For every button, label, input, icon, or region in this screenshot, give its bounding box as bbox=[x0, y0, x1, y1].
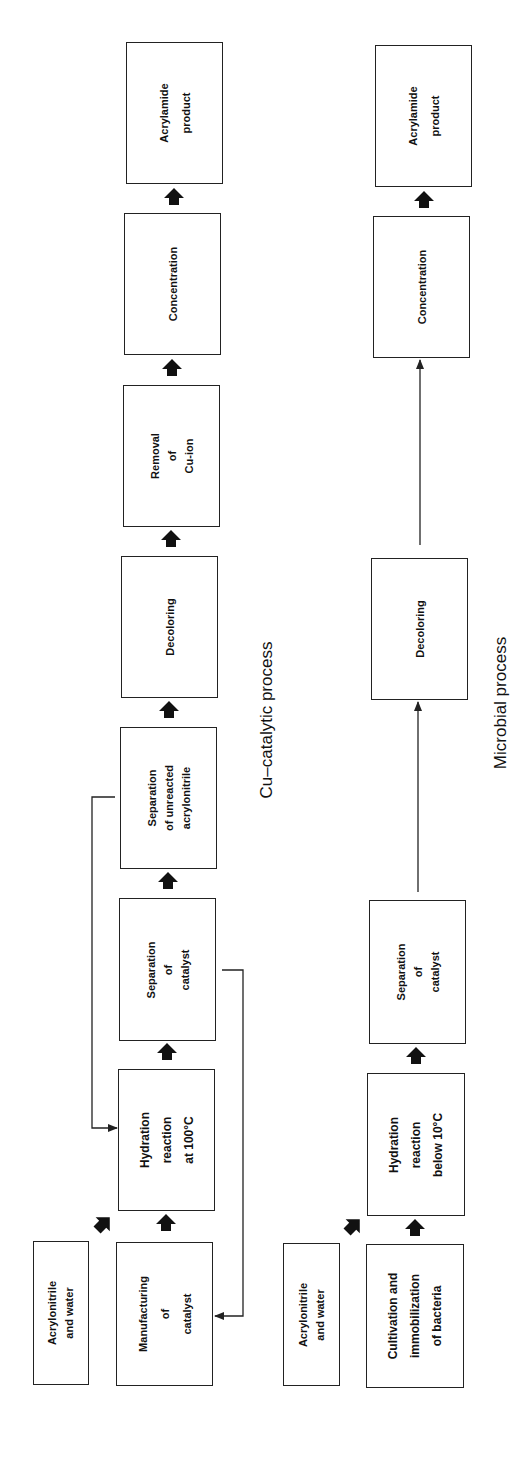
up-arrow-icon bbox=[161, 530, 181, 547]
block-arrows bbox=[90, 188, 434, 1239]
diagonal-arrow-icon bbox=[340, 1212, 367, 1239]
recycle-catalyst-line bbox=[215, 970, 243, 1316]
flow-connectors bbox=[0, 0, 515, 1472]
up-arrow-icon bbox=[406, 1047, 426, 1064]
up-arrow-icon bbox=[156, 1214, 176, 1231]
up-arrow-icon bbox=[159, 701, 179, 718]
recycle-acrylonitrile-line bbox=[92, 797, 117, 1128]
up-arrow-icon bbox=[405, 1219, 425, 1236]
up-arrow-icon bbox=[158, 872, 178, 889]
up-arrow-icon bbox=[157, 1043, 177, 1060]
up-arrow-icon bbox=[162, 359, 182, 376]
up-arrow-icon bbox=[414, 191, 434, 208]
up-arrow-icon bbox=[164, 188, 184, 205]
diagonal-arrow-icon bbox=[90, 1210, 117, 1237]
